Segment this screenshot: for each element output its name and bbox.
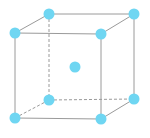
edge-front-top-right-to-back-top-right [101,14,134,34]
edge-front-top-left-to-front-top-right [15,33,101,34]
edge-front-bottom-right-to-back-bottom-right [101,99,134,119]
atom-front-top-right [96,29,107,40]
bcc-unit-cell-diagram [0,0,150,138]
atom-back-top-left [44,9,55,20]
edge-front-top-left-to-back-top-left [15,14,49,33]
atom-front-bottom-left [10,113,21,124]
atom-back-bottom-right [129,94,140,105]
edge-back-bottom-left-to-back-bottom-right [49,99,134,100]
cube-canvas [0,0,150,138]
edge-front-bottom-left-to-back-bottom-left [15,100,49,118]
atom-body-center [70,62,81,73]
atom-front-top-left [10,28,21,39]
edge-front-bottom-right-to-front-bottom-left [15,118,101,119]
atom-back-bottom-left [44,95,55,106]
atom-front-bottom-right [96,114,107,125]
atom-back-top-right [129,9,140,20]
